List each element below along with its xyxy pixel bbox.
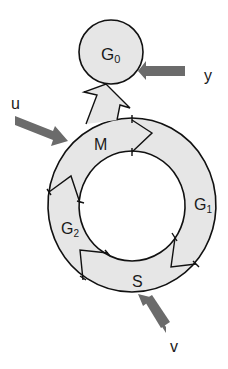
s-label: S bbox=[132, 273, 143, 290]
arrow-y-icon bbox=[138, 61, 185, 80]
v-label: v bbox=[170, 338, 178, 355]
arrow-u-icon bbox=[15, 116, 68, 146]
cell-cycle-diagram: G0 M G1 G2 S u y v bbox=[0, 0, 228, 369]
m-label: M bbox=[94, 136, 107, 153]
u-label: u bbox=[11, 95, 20, 112]
arrow-v-shaft bbox=[144, 295, 170, 328]
cycle-ring bbox=[48, 118, 216, 292]
y-label: y bbox=[204, 67, 212, 84]
